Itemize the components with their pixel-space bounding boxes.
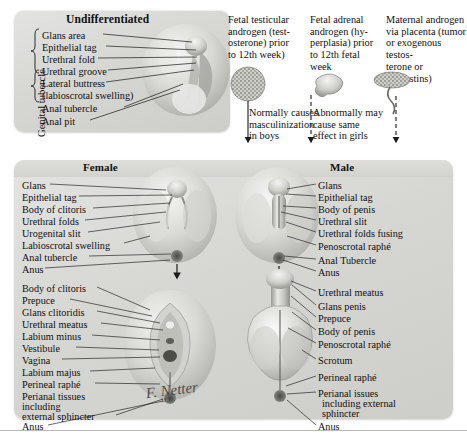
male-lower-drawing — [247, 269, 312, 402]
male-upper-drawing — [235, 167, 319, 278]
adrenal-gland-icon — [315, 74, 343, 97]
netter-plate: Undifferentiated Genital tubercle Glans … — [0, 0, 467, 439]
testis-icon — [231, 67, 265, 101]
organ-icons — [231, 67, 410, 114]
female-upper-drawing — [133, 167, 217, 276]
bottom-rule — [0, 430, 467, 431]
placenta-icon — [374, 72, 410, 114]
illustration-overlay — [0, 0, 467, 439]
leader-lines-undifferentiated — [31, 24, 230, 120]
cause-arrows — [248, 95, 396, 140]
